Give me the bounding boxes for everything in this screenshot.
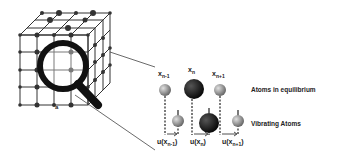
lattice-constant-label: a <box>55 104 58 110</box>
lattice-diagram <box>0 0 347 158</box>
equilibrium-atoms <box>159 79 226 99</box>
label-x-n-minus-1: xn-1 <box>158 70 169 79</box>
row-label-vibrating: Vibrating Atoms <box>251 120 301 127</box>
label-u-n-minus-1: u(xn-1) <box>157 138 177 147</box>
label-x-n-plus-1: xn+1 <box>212 70 225 79</box>
magnifying-glass-icon <box>40 43 98 105</box>
label-u-n: u(xn) <box>190 138 206 147</box>
vibrating-atoms <box>172 108 244 133</box>
label-u-n-plus-1: u(xn+1) <box>222 138 244 147</box>
label-x-n: xn <box>188 66 195 75</box>
row-label-equilibrium: Atoms in equilibrium <box>251 86 316 93</box>
